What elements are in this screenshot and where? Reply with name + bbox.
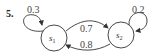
svg-text:0.2: 0.2 — [132, 4, 145, 15]
transition-s1-s1: 0.3 — [24, 4, 43, 31]
svg-text:s1: s1 — [49, 33, 56, 44]
transition-s1-s2: 0.7 — [66, 21, 108, 34]
svg-text:s2: s2 — [116, 30, 123, 41]
svg-text:0.8: 0.8 — [80, 39, 93, 50]
state-s2: s2 — [108, 22, 134, 48]
transition-s2-s1: 0.8 — [66, 39, 110, 50]
state-s1: s1 — [41, 25, 67, 51]
problem-number: 5. — [6, 8, 14, 19]
svg-text:0.7: 0.7 — [80, 23, 93, 34]
markov-chain-diagram: 5. s1 s2 0.3 0.7 0.8 0.2 — [0, 0, 157, 56]
svg-text:0.3: 0.3 — [27, 4, 40, 15]
